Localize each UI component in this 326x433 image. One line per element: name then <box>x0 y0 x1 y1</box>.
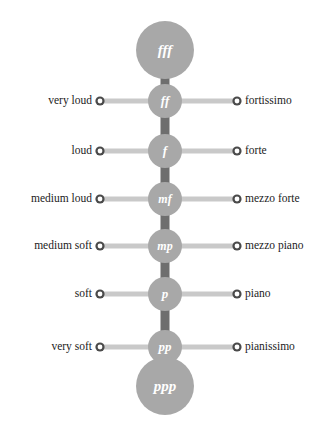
node-glyph-pp: pp <box>158 339 173 354</box>
ring-inner-right-f <box>235 149 240 154</box>
node-glyph-fff: fff <box>158 42 174 58</box>
ring-inner-right-p <box>235 292 240 297</box>
ring-inner-left-p <box>98 292 103 297</box>
english-label-mp: medium soft <box>34 240 92 252</box>
italian-label-p: piano <box>245 288 271 300</box>
italian-label-mp: mezzo piano <box>245 240 303 252</box>
ring-inner-right-mp <box>235 244 240 249</box>
ring-inner-left-pp <box>98 345 103 350</box>
english-label-f: loud <box>72 145 92 157</box>
ring-inner-right-pp <box>235 345 240 350</box>
node-glyph-ppp: ppp <box>152 378 177 394</box>
italian-label-ff: fortissimo <box>245 95 292 107</box>
ring-inner-left-mp <box>98 244 103 249</box>
node-glyph-mp: mp <box>157 239 172 253</box>
italian-label-pp: pianissimo <box>245 341 295 353</box>
english-label-ff: very loud <box>48 95 92 107</box>
ring-inner-right-mf <box>235 197 240 202</box>
node-glyph-mf: mf <box>158 192 172 206</box>
english-label-pp: very soft <box>51 341 92 353</box>
connector-ff-to-f <box>161 115 170 137</box>
english-label-p: soft <box>75 288 92 300</box>
italian-label-mf: mezzo forte <box>245 193 300 205</box>
ring-inner-left-f <box>98 149 103 154</box>
dynamics-scale-svg: ffffffmfmppppppp <box>0 0 326 433</box>
ring-inner-left-mf <box>98 197 103 202</box>
ring-inner-left-ff <box>98 99 103 104</box>
ring-inner-right-ff <box>235 99 240 104</box>
node-glyph-p: p <box>161 286 169 301</box>
connector-p-to-pp <box>161 308 170 333</box>
dynamics-diagram: ffffffmfmppppppp very loudloudmedium lou… <box>0 0 326 433</box>
english-label-mf: medium loud <box>31 193 92 205</box>
italian-label-f: forte <box>245 145 267 157</box>
